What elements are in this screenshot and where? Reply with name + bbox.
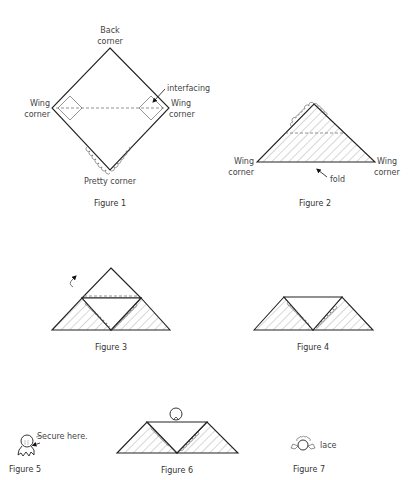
back-corner-label-2: corner — [97, 37, 123, 46]
knot-circle-icon — [21, 435, 33, 447]
figure-3: Figure 3 — [52, 268, 170, 352]
figure-4: Figure 4 — [254, 297, 373, 352]
right-wing-label-2: corner — [374, 168, 400, 177]
lace-petal-right-icon — [308, 444, 315, 449]
lace-label: lace — [320, 441, 337, 450]
back-corner-label: Back — [100, 26, 120, 35]
right-wing-label-2: corner — [169, 110, 195, 119]
figure-7: lace Figure 7 — [291, 436, 337, 474]
figure-6: Figure 6 — [117, 408, 238, 475]
knot-circle-icon — [170, 408, 182, 420]
figure-5: Secure here. Figure 5 — [9, 432, 88, 474]
secure-here-label: Secure here. — [37, 432, 88, 441]
figure-3-caption: Figure 3 — [95, 343, 127, 352]
fold-back-arrow-icon — [70, 277, 75, 287]
lace-petal-left-icon — [291, 444, 298, 449]
fold-label: fold — [330, 175, 345, 184]
interfacing-label: interfacing — [167, 84, 210, 93]
left-wing-label: Wing — [234, 157, 254, 166]
figure-2-caption: Figure 2 — [299, 199, 331, 208]
knot-detail-icon — [25, 440, 28, 445]
top-flap — [82, 268, 141, 298]
left-wing-label: Wing — [30, 99, 50, 108]
figure-6-caption: Figure 6 — [161, 466, 193, 475]
left-wing-label-2: corner — [228, 168, 254, 177]
figure-1: Back corner Wing corner Wing corner inte… — [24, 26, 210, 208]
knot-circle-icon — [298, 440, 308, 450]
napkin-square — [52, 48, 169, 170]
pretty-corner-label: Pretty corner — [84, 177, 137, 186]
secure-arrow-icon — [34, 443, 40, 445]
figure-5-caption: Figure 5 — [9, 465, 41, 474]
left-wing-label-2: corner — [24, 110, 50, 119]
folding-instructions-diagram: Back corner Wing corner Wing corner inte… — [0, 0, 413, 480]
right-wing-label: Wing — [171, 99, 191, 108]
right-wing-label: Wing — [377, 157, 397, 166]
ruffle-icon — [18, 446, 34, 456]
fold-arrow-icon — [318, 170, 327, 177]
figure-7-caption: Figure 7 — [293, 465, 325, 474]
figure-4-caption: Figure 4 — [297, 343, 329, 352]
figure-1-caption: Figure 1 — [94, 199, 126, 208]
figure-2: Wing corner Wing corner fold Figure 2 — [228, 102, 400, 208]
